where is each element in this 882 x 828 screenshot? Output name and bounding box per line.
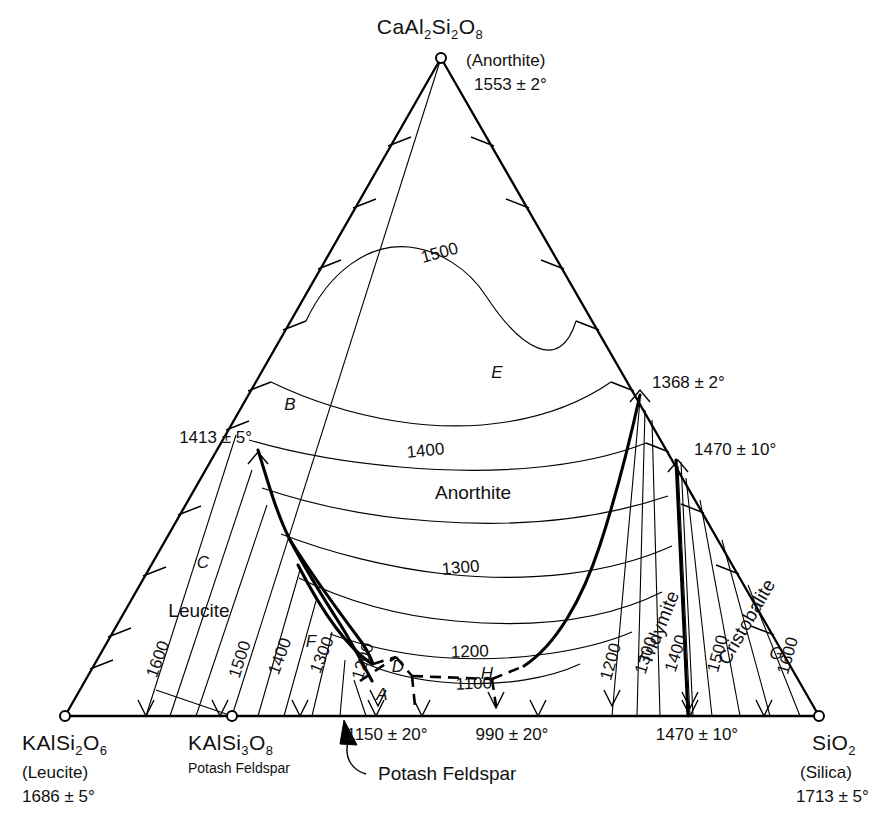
vertex-potash-feldspar xyxy=(227,711,237,721)
right-mineral-name: (Silica) xyxy=(800,763,852,782)
invariant-temp-1470-lower: 1470 ± 10° xyxy=(656,725,738,744)
apex-formula-p1: CaAl xyxy=(377,15,424,38)
region-letter-E: E xyxy=(491,363,503,382)
left-formula-s1: 2 xyxy=(75,743,83,758)
feldspar-formula-p1: KAlSi xyxy=(188,731,241,754)
phase-label-anorthite: Anorthite xyxy=(435,482,511,503)
svg-text:KAlSi3O8: KAlSi3O8 xyxy=(188,731,273,758)
phase-label-leucite: Leucite xyxy=(168,600,229,621)
left-formula-s2: 6 xyxy=(100,743,108,758)
invariant-temp-990: 990 ± 20° xyxy=(476,725,549,744)
right-temperature: 1713 ± 5° xyxy=(796,787,869,806)
feldspar-mineral-name: Potash Feldspar xyxy=(188,760,290,776)
feldspar-formula-s1: 3 xyxy=(241,743,249,758)
feldspar-formula-s2: 8 xyxy=(266,743,274,758)
edge-temp-1600-left: 1600 xyxy=(142,638,173,680)
svg-text:CaAl2Si2O8: CaAl2Si2O8 xyxy=(377,15,483,42)
left-formula-p2: O xyxy=(83,731,100,754)
left-temperature: 1686 ± 5° xyxy=(22,787,95,806)
apex-temperature: 1553 ± 2° xyxy=(474,75,547,94)
vertex-leucite xyxy=(60,711,70,721)
left-mineral-name: (Leucite) xyxy=(22,763,88,782)
apex-formula-s3: 8 xyxy=(476,27,484,42)
isotherm-label-group: 1500 1400 1300 1200 1100 xyxy=(406,239,493,694)
left-formula-p1: KAlSi xyxy=(22,731,75,754)
isotherm-label-1200: 1200 xyxy=(451,641,489,661)
right-formula-s1: 2 xyxy=(848,743,856,758)
apex-mineral-name: (Anorthite) xyxy=(466,51,545,70)
invariant-temp-1470-upper: 1470 ± 10° xyxy=(694,440,776,459)
region-letter-C: C xyxy=(197,553,210,572)
edge-left xyxy=(65,58,441,716)
svg-text:SiO2: SiO2 xyxy=(812,731,856,758)
invariant-temp-1368: 1368 ± 2° xyxy=(652,373,725,392)
annotation-potash-feldspar: Potash Feldspar xyxy=(378,763,517,784)
dashed-mid-down xyxy=(412,676,415,706)
isotherm-1500 xyxy=(306,247,486,321)
edge-temp-1200-right: 1200 xyxy=(596,641,625,683)
boundary-tridymite-cristobalite xyxy=(676,460,688,716)
invariant-temp-1150: 1150 ± 20° xyxy=(346,725,427,744)
right-formula-p1: SiO xyxy=(812,731,848,754)
phase-diagram-canvas: 1500 1400 1300 1200 1100 1600 1500 1400 … xyxy=(0,0,882,828)
region-letter-B: B xyxy=(284,395,295,414)
isotherm-label-1300: 1300 xyxy=(441,556,480,578)
boundary-anorthite-tridymite xyxy=(524,395,640,666)
corner-label-leucite: KAlSi2O6 (Leucite) 1686 ± 5° xyxy=(22,731,107,806)
isotherm-label-1400: 1400 xyxy=(406,439,446,462)
apex-formula-s1: 2 xyxy=(424,27,432,42)
vertex-silica xyxy=(814,711,824,721)
invariant-temp-1413: 1413 ± 5° xyxy=(179,428,252,447)
vertex-anorthite xyxy=(436,53,446,63)
region-letter-A: A xyxy=(375,685,387,704)
region-letter-H: H xyxy=(481,664,494,683)
corner-label-potash-feldspar: KAlSi3O8 Potash Feldspar xyxy=(188,731,290,776)
region-letter-D: D xyxy=(392,657,404,676)
edge-right xyxy=(441,58,819,716)
edge-temp-1400-left: 1400 xyxy=(264,635,295,677)
feldspar-formula-p2: O xyxy=(249,731,266,754)
apex-formula-p2: Si xyxy=(432,15,451,38)
ternary-phase-diagram: 1500 1400 1300 1200 1100 1600 1500 1400 … xyxy=(0,0,882,828)
isotherm-label-1500: 1500 xyxy=(419,239,460,267)
apex-formula-p3: O xyxy=(459,15,476,38)
region-letter-G: G xyxy=(769,644,782,663)
isotherm-1400 xyxy=(249,440,646,470)
svg-text:KAlSi2O6: KAlSi2O6 xyxy=(22,731,107,758)
isotherm-mid-upper xyxy=(271,382,611,426)
corner-label-silica: SiO2 (Silica) 1713 ± 5° xyxy=(796,731,869,806)
apex-formula-s2: 2 xyxy=(451,27,459,42)
region-letter-F: F xyxy=(306,632,318,651)
corner-label-anorthite: CaAl2Si2O8 (Anorthite) 1553 ± 2° xyxy=(377,15,547,94)
isotherms xyxy=(249,247,672,684)
dashed-H-cotectic xyxy=(492,666,524,679)
